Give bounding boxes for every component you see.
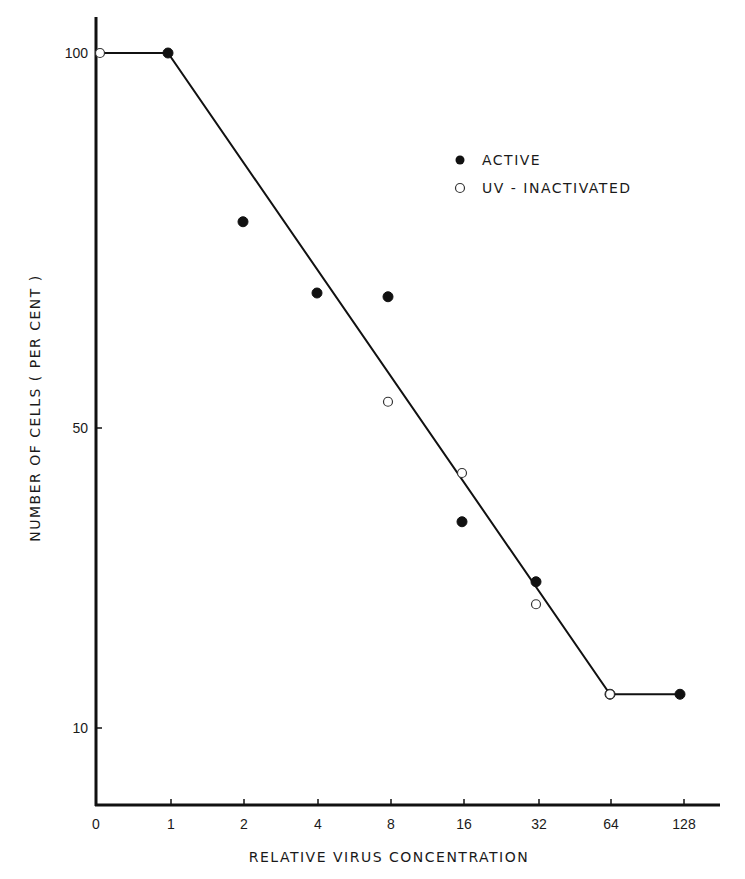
active-point (531, 577, 541, 587)
x-tick-label: 2 (240, 816, 248, 832)
chart-canvas: 012481632641281050100 ACTIVE UV - INACTI… (0, 0, 745, 879)
uv-inactivated-point (458, 469, 467, 478)
uv-inactivated-point (606, 690, 615, 699)
x-tick-label: 0 (92, 816, 100, 832)
data-points (96, 48, 686, 699)
legend-active-label: ACTIVE (482, 152, 541, 168)
fit-line-path (100, 53, 680, 694)
y-tick-label: 10 (72, 720, 88, 736)
y-tick-label: 50 (72, 420, 88, 436)
fit-line (100, 53, 680, 694)
uv-inactivated-point (384, 397, 393, 406)
x-tick-label: 8 (387, 816, 395, 832)
y-tick-label: 100 (65, 45, 89, 61)
active-point (383, 292, 393, 302)
active-point (238, 217, 248, 227)
axis-ticks: 012481632641281050100 (65, 45, 696, 832)
uv-inactivated-point (532, 600, 541, 609)
legend-uv-marker-icon (456, 184, 465, 193)
active-point (163, 48, 173, 58)
active-point (312, 288, 322, 298)
legend-active-marker-icon (456, 156, 465, 165)
x-axis-title: RELATIVE VIRUS CONCENTRATION (249, 849, 530, 865)
x-tick-label: 128 (672, 816, 696, 832)
x-tick-label: 16 (456, 816, 472, 832)
legend: ACTIVE UV - INACTIVATED (456, 152, 632, 196)
legend-uv-label: UV - INACTIVATED (482, 180, 632, 196)
x-tick-label: 1 (167, 816, 175, 832)
active-point (675, 689, 685, 699)
axes (95, 17, 720, 806)
y-axis-title: NUMBER OF CELLS ( PER CENT ) (27, 274, 43, 541)
x-tick-label: 4 (314, 816, 322, 832)
uv-inactivated-point (96, 49, 105, 58)
x-tick-label: 64 (603, 816, 619, 832)
active-point (457, 517, 467, 527)
x-tick-label: 32 (531, 816, 547, 832)
